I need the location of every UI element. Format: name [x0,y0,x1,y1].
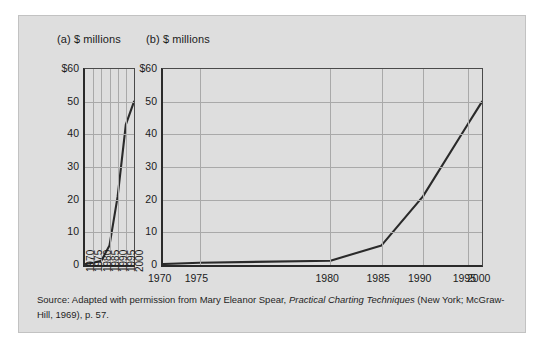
chart-a-y-axis-labels: $6050403020100 [37,68,79,267]
y-tick-label: 20 [67,193,79,204]
x-tick-label: 1970 [148,273,171,284]
y-tick-label: 40 [67,128,79,139]
x-tick-label: 1990 [408,273,431,284]
gridline-horizontal [163,167,482,168]
y-tick-label: 50 [67,95,79,106]
y-tick-label: 30 [67,161,79,172]
y-tick-label: $60 [61,63,79,74]
y-tick-label: 0 [151,259,157,270]
y-tick-label: 10 [67,226,79,237]
y-tick-label: 40 [145,128,157,139]
chart-a-title: (a) $ millions [57,33,121,45]
y-tick-label: 10 [145,226,157,237]
figure-frame: (a) $ millions (b) $ millions $605040302… [18,15,526,333]
y-tick-label: 20 [145,193,157,204]
x-tick-label: 1985 [367,273,390,284]
gridline-horizontal [163,134,482,135]
y-tick-label: 50 [145,95,157,106]
chart-b-title: (b) $ millions [146,33,210,45]
y-tick-label: $60 [139,63,157,74]
x-tick-label: 1975 [185,273,208,284]
gridline-horizontal [163,200,482,201]
chart-b-y-axis-labels: $6050403020100 [115,68,157,267]
chart-b-plot-area [161,68,483,267]
source-note: Source: Adapted with permission from Mar… [37,293,507,322]
gridline-horizontal [163,102,482,103]
gridline-horizontal [163,232,482,233]
x-tick-label: 2000 [467,273,490,284]
source-note-title: Practical Charting Techniques [289,294,415,305]
data-series-polyline [163,102,482,264]
y-tick-label: 30 [145,161,157,172]
chart-b-x-axis-labels: 1970197519801985199019952000 [161,271,483,287]
source-note-prefix: Source: Adapted with permission from Mar… [37,294,289,305]
y-tick-label: 0 [73,259,79,270]
x-tick-label: 1980 [315,273,338,284]
